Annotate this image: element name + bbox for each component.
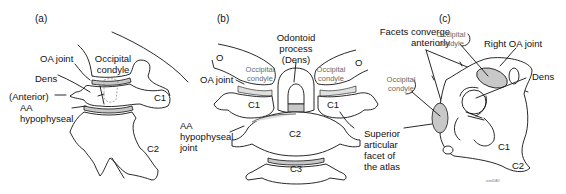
panel-b-occipital-condyle-right-label: Occipital condyle: [313, 66, 349, 83]
panel-a-tag: (a): [35, 13, 47, 24]
panel-c-tag: (c): [439, 13, 451, 24]
panel-b-c1-left-label: C1: [248, 99, 260, 110]
cervical-spine-figure: (a) OA joint Occipital condyle Dens (Ant…: [0, 0, 566, 194]
panel-c-drawing: [404, 34, 532, 172]
panel-b-superior-articular-facet-label: Superior articular facet of the atlas: [364, 128, 400, 172]
panel-b-c3-label: C3: [290, 163, 302, 174]
panel-b-tag: (b): [217, 13, 229, 24]
panel-a-occipital-condyle-label: Occipital condyle: [93, 53, 133, 75]
panel-c-c2-label: C2: [512, 160, 524, 171]
panel-b-o-right-label: O: [355, 57, 362, 68]
panel-c-right-oa-joint-label: Right OA joint: [484, 38, 542, 49]
panel-b-c2-label: C2: [289, 128, 301, 139]
panel-c-dens-label: Dens: [532, 71, 554, 82]
panel-a-anterior-label: (Anterior): [9, 91, 49, 102]
panel-c-artwork-credit: ww0/40: [486, 178, 500, 183]
panel-c-occipital-condyle-left-label: Occipital condyle: [383, 76, 419, 93]
panel-b-c1-right-label: C1: [327, 99, 339, 110]
panel-c-c1-label: C1: [498, 141, 510, 152]
panel-b-occipital-condyle-left-label: Occipital condyle: [242, 66, 278, 83]
anatomy-drawings: [0, 0, 566, 194]
panel-a-oa-joint-label: OA joint: [40, 53, 73, 64]
panel-b-odontoid-label: Odontoid process (Dens): [275, 32, 317, 65]
panel-a-aa-hypophyseal-label: AA hypophyseal: [20, 102, 73, 124]
panel-b-oa-joint-label: OA joint: [200, 74, 233, 85]
panel-a-c1-label: C1: [154, 92, 166, 103]
panel-b-aa-hypophyseal-joint-label: AA hypophyseal joint: [180, 120, 233, 153]
panel-a-c2-label: C2: [147, 143, 159, 154]
panel-b-o-left-label: O: [216, 52, 223, 63]
panel-a-dens-label: Dens: [35, 73, 57, 84]
panel-c-occipital-condyle-top-label: Occipital condyle: [433, 31, 469, 48]
